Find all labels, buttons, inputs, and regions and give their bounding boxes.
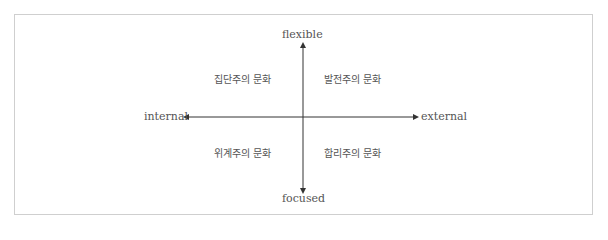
- axis-label-focused: focused: [282, 193, 325, 204]
- axis-label-external: external: [421, 111, 467, 122]
- axis-label-internal: internal: [144, 111, 188, 122]
- axis-label-flexible: flexible: [282, 29, 323, 40]
- quadrant-label-clan-culture: 집단주의 문화: [214, 75, 271, 85]
- quadrant-label-developmental-culture: 발전주의 문화: [324, 75, 381, 85]
- quadrant-label-rational-culture: 합리주의 문화: [324, 149, 381, 159]
- quadrant-label-hierarchical-culture: 위계주의 문화: [214, 149, 271, 159]
